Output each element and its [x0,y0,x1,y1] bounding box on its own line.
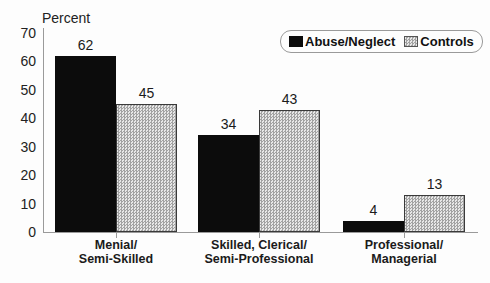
category-label: Skilled, Clerical/Semi-Professional [179,238,339,266]
y-tick-label: 10 [8,196,36,212]
bar [55,56,116,232]
y-tick-label: 50 [8,82,36,98]
bar [404,195,465,232]
legend: Abuse/Neglect Controls [280,30,483,53]
bar-chart: Percent 010203040506070 62453443413 Meni… [0,0,490,283]
bar-value-label: 45 [116,86,177,101]
y-tick-label: 70 [8,25,36,41]
y-tick-label: 40 [8,110,36,126]
controls-swatch-icon [404,36,418,47]
legend-item-controls: Controls [404,34,473,49]
legend-label-abuse-neglect: Abuse/Neglect [305,34,395,49]
y-axis-title: Percent [42,10,90,26]
bar [343,221,404,232]
abuse-neglect-swatch-icon [289,36,303,47]
y-tick-label: 20 [8,167,36,183]
y-tick-label: 0 [8,224,36,240]
bar-value-label: 4 [343,203,404,218]
bar-value-label: 62 [55,38,116,53]
category-label: Menial/Semi-Skilled [36,238,196,266]
legend-item-abuse-neglect: Abuse/Neglect [289,34,395,49]
y-axis-line [43,28,44,232]
bar [116,104,177,232]
bar [259,110,320,232]
bar-value-label: 43 [259,92,320,107]
category-label: Professional/Managerial [324,238,484,266]
bar-value-label: 34 [198,117,259,132]
bar-value-label: 13 [404,177,465,192]
y-tick-label: 60 [8,53,36,69]
legend-label-controls: Controls [420,34,473,49]
bar [198,135,259,232]
y-tick-label: 30 [8,139,36,155]
x-axis-line [43,232,478,233]
